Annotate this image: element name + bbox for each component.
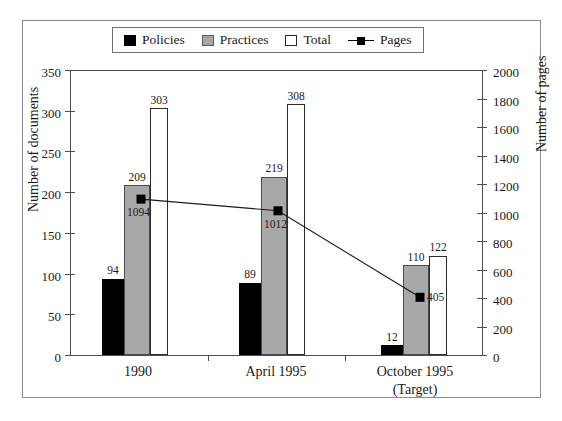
plot-area: 0 50 100 150 200 250 300 350 0 200 400 6… [70, 70, 483, 355]
right-tick-label-1000: 1000 [493, 209, 519, 222]
x-tick-1 [208, 355, 209, 361]
left-axis-title: Number of documents [26, 87, 42, 212]
practices-swatch-icon [202, 35, 214, 46]
chart-legend: Policies Practices Total Pages [112, 27, 424, 53]
left-tick-label-0: 0 [55, 351, 62, 364]
right-tick-label-1200: 1200 [493, 180, 519, 193]
left-tick-label-200: 200 [42, 188, 62, 201]
right-axis-title: Number of pages [534, 56, 550, 152]
legend-label-practices: Practices [220, 33, 269, 47]
x-label-october-1995: October 1995 (Target) [377, 363, 454, 398]
left-tick-label-250: 250 [42, 147, 62, 160]
legend-label-policies: Policies [142, 33, 185, 47]
left-tick-label-350: 350 [42, 66, 62, 79]
pages-line-marker-icon [348, 35, 374, 46]
pages-value-april-1995: 1012 [264, 219, 287, 231]
left-tick-label-100: 100 [42, 270, 62, 283]
left-tick-label-50: 50 [48, 310, 61, 323]
x-label-october-1995-line2: (Target) [377, 381, 454, 399]
x-label-1990-line1: 1990 [124, 364, 152, 379]
pages-marker-april-1995 [274, 206, 283, 215]
legend-label-pages: Pages [380, 33, 412, 47]
x-label-april-1995: April 1995 [245, 363, 306, 381]
pages-value-1990: 1094 [127, 207, 150, 219]
right-tick-label-2000: 2000 [493, 66, 519, 79]
right-tick-label-600: 600 [493, 266, 513, 279]
legend-item-pages: Pages [348, 33, 412, 47]
right-tick-label-1600: 1600 [493, 123, 519, 136]
right-tick-label-1400: 1400 [493, 152, 519, 165]
x-label-october-1995-line1: October 1995 [377, 364, 454, 379]
pages-marker-1990 [137, 195, 146, 204]
right-tick-label-200: 200 [493, 323, 513, 336]
left-tick-label-300: 300 [42, 107, 62, 120]
legend-item-practices: Practices [202, 33, 269, 47]
pages-marker-october-1995 [416, 293, 425, 302]
left-tick-label-150: 150 [42, 229, 62, 242]
x-label-april-1995-line1: April 1995 [245, 364, 306, 379]
policies-swatch-icon [124, 35, 136, 46]
x-label-1990: 1990 [124, 363, 152, 381]
legend-item-total: Total [285, 33, 331, 47]
right-tick-label-0: 0 [493, 351, 500, 364]
legend-label-total: Total [303, 33, 331, 47]
right-tick-label-1800: 1800 [493, 95, 519, 108]
right-tick-label-400: 400 [493, 294, 513, 307]
total-swatch-icon [285, 35, 297, 46]
x-tick-2 [345, 355, 346, 361]
right-tick-label-800: 800 [493, 237, 513, 250]
pages-value-october-1995: 405 [427, 292, 444, 304]
legend-item-policies: Policies [124, 33, 185, 47]
